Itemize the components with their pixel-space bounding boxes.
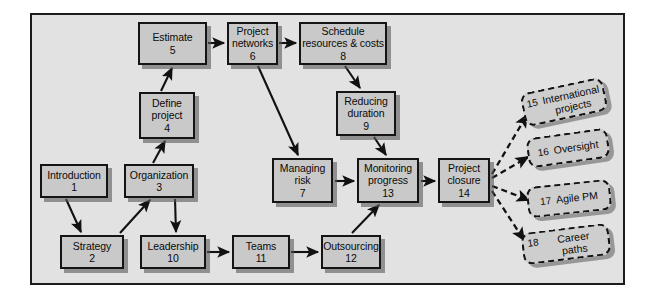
node-title: Introduction (47, 169, 101, 181)
node-organization[interactable]: Organization3 (124, 164, 194, 198)
edge-organization-leadership (175, 199, 176, 232)
node-number: 1 (71, 181, 77, 193)
node-leadership[interactable]: Leadership10 (140, 235, 206, 269)
node-introduction[interactable]: Introduction1 (40, 164, 108, 198)
node-number: 10 (167, 252, 178, 264)
supplement-number: 17 (540, 195, 552, 208)
node-define[interactable]: Define project4 (139, 92, 195, 139)
node-monitoring[interactable]: Monitoring progress13 (357, 158, 419, 203)
node-title: Teams (246, 240, 276, 252)
edge-closure-agile (492, 186, 529, 200)
node-title: Monitoring progress (359, 162, 417, 187)
node-title: Strategy (73, 240, 111, 252)
node-number: 4 (164, 122, 170, 134)
edge-outsourcing-monitoring (352, 205, 379, 233)
supplement-number: 15 (526, 97, 539, 111)
node-title: Managing risk (274, 162, 331, 187)
supplement-inner: 17Agile PM (535, 189, 602, 209)
node-title: Estimate (152, 31, 192, 43)
node-title: Define project (141, 97, 193, 122)
supplement-label: International projects (541, 83, 603, 118)
edge-closure-career (492, 191, 524, 240)
edge-strategy-organization (120, 200, 150, 233)
edge-schedule-reducing (345, 66, 360, 88)
node-schedule[interactable]: Schedule resources & costs8 (299, 22, 387, 65)
node-number: 12 (345, 252, 356, 264)
node-title: Reducing duration (338, 95, 394, 120)
node-outsourcing[interactable]: Outsourcing12 (321, 235, 381, 269)
supplement-label: Agile PM (555, 189, 598, 205)
edge-organization-define (153, 141, 165, 163)
dashed-connectors (492, 115, 529, 240)
node-number: 13 (382, 187, 393, 199)
supplement-label: Career paths (543, 227, 605, 258)
edge-define-estimate (161, 68, 172, 91)
edge-closure-oversight (492, 157, 528, 178)
supplement-number: 16 (537, 145, 550, 158)
solid-connectors (66, 43, 435, 252)
node-title: Schedule resources & costs (301, 25, 385, 50)
node-title: Organization (130, 169, 188, 181)
supplement-inner: 16Oversight (533, 137, 603, 159)
node-number: 9 (363, 120, 369, 132)
node-closure[interactable]: Project closure14 (438, 158, 490, 203)
node-number: 5 (170, 44, 176, 56)
supplement-inner: 18Career paths (523, 227, 609, 261)
node-number: 6 (250, 50, 256, 62)
supplement-label: Oversight (553, 137, 599, 155)
edge-closure-international (492, 115, 527, 174)
node-number: 8 (340, 50, 346, 62)
node-number: 14 (458, 187, 469, 199)
node-number: 7 (300, 187, 306, 199)
node-number: 3 (156, 181, 162, 193)
node-number: 2 (89, 252, 95, 264)
node-strategy[interactable]: Strategy2 (60, 235, 124, 269)
edge-networks-risk (258, 66, 298, 155)
figure-root: Introduction1Strategy2Organization3Defin… (0, 0, 652, 304)
node-teams[interactable]: Teams11 (232, 235, 290, 269)
node-risk[interactable]: Managing risk7 (272, 158, 333, 203)
edge-reducing-monitoring (374, 137, 386, 155)
node-number: 11 (256, 252, 267, 264)
node-reducing[interactable]: Reducing duration9 (336, 91, 396, 136)
node-networks[interactable]: Project networks6 (227, 22, 278, 65)
node-estimate[interactable]: Estimate5 (138, 22, 207, 65)
node-title: Leadership (148, 240, 199, 252)
edge-introduction-strategy (66, 199, 81, 232)
node-title: Project closure (440, 162, 488, 187)
node-title: Outsourcing (323, 240, 379, 252)
supplement-number: 18 (527, 236, 540, 249)
node-title: Project networks (229, 25, 276, 50)
